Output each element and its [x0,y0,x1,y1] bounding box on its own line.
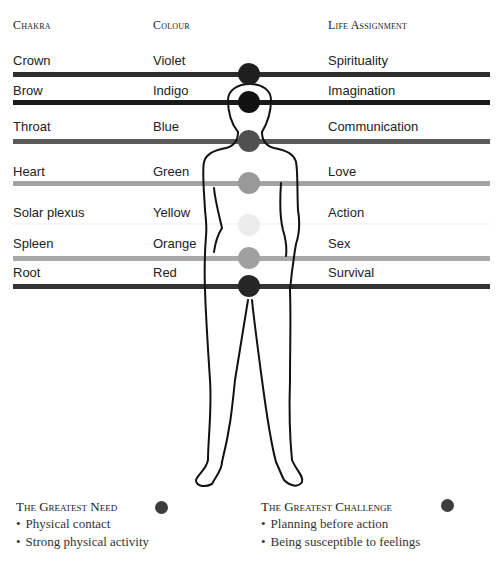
chakra-dot-throat [238,130,260,152]
chakra-dot-heart [238,172,260,194]
chakra-dot-crown [238,63,260,85]
greatest-challenge-item: Planning before action [261,516,388,532]
greatest-need-dot-icon [155,501,168,514]
greatest-challenge-dot-icon [441,499,454,512]
chakra-dot-root [238,275,260,297]
greatest-challenge-title: The Greatest Challenge [261,499,392,515]
chakra-dot-spleen [238,247,260,269]
greatest-challenge-item: Being susceptible to feelings [261,534,420,550]
greatest-need-item: Strong physical activity [16,534,149,550]
chakra-dot-brow [238,91,260,113]
greatest-need-item: Physical contact [16,516,110,532]
chakra-dot-solar-plexus [238,214,260,236]
greatest-need-title: The Greatest Need [16,499,117,515]
